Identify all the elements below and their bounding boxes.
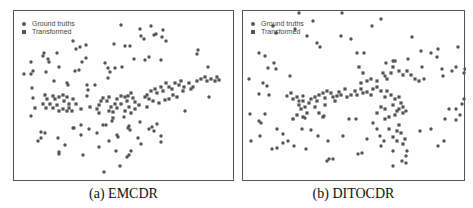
ground-truth-point [207, 95, 210, 98]
transformed-point [387, 115, 390, 118]
ground-truth-point [22, 72, 25, 75]
transformed-point [355, 93, 358, 96]
transformed-point [57, 109, 60, 112]
transformed-point [395, 109, 398, 112]
transformed-point [149, 89, 152, 92]
transformed-point [123, 109, 126, 112]
ground-truth-point [429, 51, 432, 54]
ground-truth-point [71, 126, 74, 129]
transformed-point [137, 103, 140, 106]
transformed-point [199, 77, 202, 80]
legend-label: Ground truths [261, 20, 304, 28]
legend: Ground truths Transformed [22, 20, 75, 36]
ground-truth-point [164, 39, 167, 42]
transformed-point [111, 116, 114, 119]
ground-truth-point [142, 37, 145, 40]
ground-truth-point [149, 24, 152, 27]
ground-truth-point [113, 66, 116, 69]
transformed-point [365, 79, 368, 82]
ground-truth-point [297, 11, 300, 14]
transformed-point [289, 91, 292, 94]
transformed-point [401, 111, 404, 114]
transformed-point [70, 109, 73, 112]
ground-truth-point [441, 74, 444, 77]
transformed-point [331, 95, 334, 98]
legend-item-transformed: Transformed [251, 28, 304, 36]
ground-truth-point [160, 35, 163, 38]
ground-truth-point [31, 69, 34, 72]
ground-truth-point [275, 146, 278, 149]
ground-truth-point [80, 60, 83, 63]
transformed-point [159, 85, 162, 88]
ground-truth-point [195, 52, 198, 55]
ground-truth-point [79, 133, 82, 136]
ground-truth-point [274, 67, 277, 70]
ground-truth-point [128, 128, 131, 131]
transformed-point [43, 93, 46, 96]
ground-truth-point [56, 136, 59, 139]
transformed-point [44, 106, 47, 109]
transformed-point [383, 95, 386, 98]
transformed-point [97, 111, 100, 114]
ground-truth-point [152, 33, 155, 36]
transformed-point [297, 103, 300, 106]
transformed-point [323, 96, 326, 99]
ground-truth-point [46, 57, 49, 60]
transformed-point [353, 89, 356, 92]
transformed-point [295, 95, 298, 98]
ground-truth-point [101, 123, 104, 126]
ground-truth-point [106, 66, 109, 69]
transformed-point [209, 77, 212, 80]
scatter-panel-emcdr: Ground truths Transformed [13, 10, 234, 181]
transformed-point [65, 109, 68, 112]
ground-truth-point [436, 47, 439, 50]
ground-truth-point [107, 139, 110, 142]
ground-truth-point [159, 134, 162, 137]
transformed-point [399, 101, 402, 104]
ground-truth-point [349, 37, 352, 40]
transformed-point [325, 89, 328, 92]
transformed-point [333, 99, 336, 102]
caption-ditocdr: (b) DITOCDR [242, 186, 465, 202]
transformed-point [383, 117, 386, 120]
transformed-point [403, 137, 406, 140]
transformed-point [51, 106, 54, 109]
ground-truth-point [93, 83, 96, 86]
ground-truth-point [257, 92, 260, 95]
transformed-point [305, 111, 308, 114]
ground-truth-point [443, 117, 446, 120]
legend-label: Transformed [32, 28, 71, 36]
transformed-point [88, 105, 91, 108]
transformed-point [357, 65, 360, 68]
transformed-point [115, 97, 118, 100]
transformed-point [321, 91, 324, 94]
ground-truth-point [129, 149, 132, 152]
ground-truth-point [272, 61, 275, 64]
ground-truth-point [132, 57, 135, 60]
transformed-point [395, 129, 398, 132]
ground-truth-point [365, 137, 368, 140]
transformed-point [175, 95, 178, 98]
ground-truth-point [420, 65, 423, 68]
transformed-point [51, 94, 54, 97]
transformed-point [393, 113, 396, 116]
transformed-point [401, 73, 404, 76]
ground-truth-point [29, 114, 32, 117]
ground-truth-point [378, 134, 381, 137]
transformed-point [381, 71, 384, 74]
transformed-point [397, 69, 400, 72]
transformed-point [129, 111, 132, 114]
ground-truth-point [300, 127, 303, 130]
transformed-point [101, 96, 104, 99]
ground-truth-point [122, 115, 125, 118]
ground-truth-point [108, 70, 111, 73]
ground-truth-point [315, 41, 318, 44]
transformed-point [291, 117, 294, 120]
transformed-point [391, 103, 394, 106]
transformed-point [164, 81, 167, 84]
ground-truth-point [304, 147, 307, 150]
transformed-point [379, 105, 382, 108]
transformed-point [383, 107, 386, 110]
ground-truth-point [78, 45, 81, 48]
ground-truth-point [375, 127, 378, 130]
